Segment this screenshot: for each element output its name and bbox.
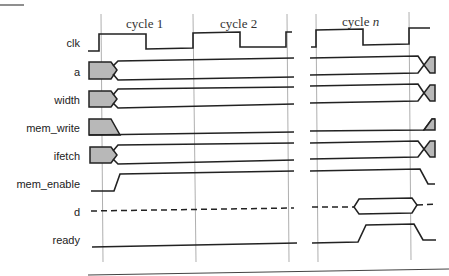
waveform-ifetch bbox=[90, 141, 435, 164]
cycle-n-label: cycle n bbox=[342, 14, 379, 29]
signal-label-d: d bbox=[74, 206, 80, 218]
signal-label-width: width bbox=[53, 94, 80, 106]
signal-label-mem-write: mem_write bbox=[26, 122, 80, 134]
waveform-width bbox=[89, 84, 435, 108]
signal-label-ready: ready bbox=[52, 234, 80, 246]
waveform-ready bbox=[92, 224, 436, 247]
bottom-rule bbox=[88, 269, 449, 275]
signal-label-ifetch: ifetch bbox=[54, 150, 80, 162]
waveform-clk bbox=[88, 28, 430, 51]
signal-label-mem-enable: mem_enable bbox=[16, 178, 80, 190]
waveform-mem-enable bbox=[91, 169, 435, 191]
waveform-d bbox=[91, 198, 437, 214]
waveform-a bbox=[89, 56, 435, 80]
signal-label-clk: clk bbox=[67, 37, 81, 49]
waveform-mem-write bbox=[89, 119, 435, 135]
timing-diagram: cycle 1 cycle 2 cycle n clk a width mem_… bbox=[0, 0, 449, 276]
cycle-2-label: cycle 2 bbox=[220, 16, 257, 31]
cycle-1-label: cycle 1 bbox=[126, 16, 163, 31]
signal-label-a: a bbox=[74, 66, 81, 78]
